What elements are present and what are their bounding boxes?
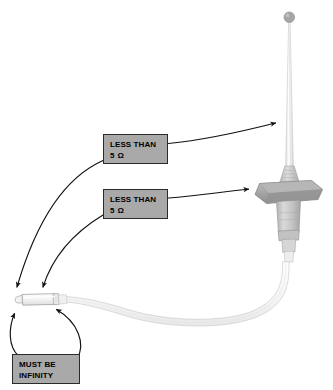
callout-base-line2: 5 Ω: [110, 205, 162, 216]
antenna-resistance-diagram: LESS THAN 5 Ω LESS THAN 5 Ω MUST BE INFI…: [0, 0, 333, 390]
antenna-assembly: [255, 12, 323, 262]
antenna-tip-highlight: [286, 14, 290, 18]
antenna-tip-ball: [284, 12, 295, 23]
leader-infinity-to-tip: [10, 314, 18, 357]
leader-antenna-mast: [169, 123, 276, 144]
callout-less-than-5-ohm-base: LESS THAN 5 Ω: [103, 189, 168, 219]
callout-base-line1: LESS THAN: [110, 194, 162, 205]
callout-infinity-line2: INFINITY: [19, 370, 74, 381]
leader-infinity-to-body: [57, 310, 81, 359]
antenna-lower-body: [277, 200, 301, 234]
callout-infinity-line1: MUST BE: [19, 359, 74, 370]
callout-mast-line1: LESS THAN: [110, 139, 162, 150]
coax-connector: [15, 294, 67, 306]
antenna-body-strain-relief: [284, 251, 293, 262]
leader-base-to-connector: [43, 215, 103, 287]
callout-must-be-infinity: MUST BE INFINITY: [12, 354, 80, 384]
antenna-body-ferrule: [282, 239, 296, 252]
callout-mast-line2: 5 Ω: [110, 150, 162, 161]
callout-less-than-5-ohm-mast: LESS THAN 5 Ω: [103, 134, 168, 164]
coax-connector-neck: [59, 295, 67, 304]
coax-connector-tip: [15, 295, 22, 303]
coax-cable-body: [66, 262, 289, 327]
leader-antenna-base: [169, 189, 249, 198]
coax-connector-barrel: [22, 294, 56, 306]
coax-cable: [66, 262, 289, 327]
coax-connector-collar: [53, 294, 59, 305]
